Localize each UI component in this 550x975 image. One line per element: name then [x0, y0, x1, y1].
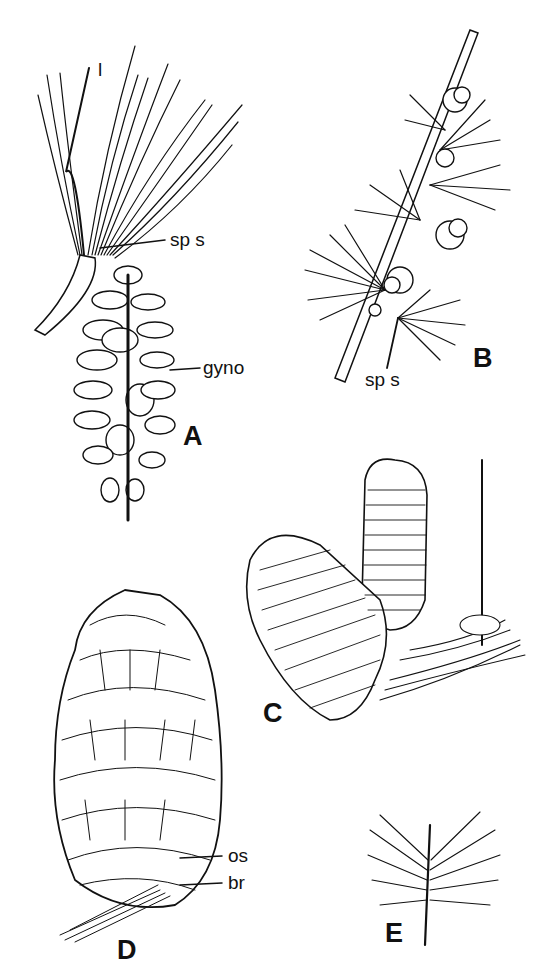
annotation-spur-shoot-a: sp s — [170, 230, 205, 249]
panel-label-b: B — [473, 345, 493, 372]
botanical-plate: l sp s gyno A sp s B C os br D E — [0, 0, 550, 975]
panel-label-c: C — [263, 700, 283, 727]
panel-a-cone — [74, 266, 175, 520]
panel-b-twig — [305, 30, 510, 382]
panel-label-e: E — [385, 920, 403, 947]
panel-a-needles — [38, 46, 242, 258]
annotation-bract: br — [228, 873, 245, 892]
annotation-spur-shoot-b: sp s — [365, 370, 400, 389]
annotation-gyno: gyno — [203, 358, 244, 377]
panel-d-cone — [54, 590, 222, 942]
panel-label-d: D — [117, 937, 137, 964]
illustration-drawing — [0, 0, 550, 975]
annotation-leaf-l: l — [98, 60, 102, 79]
panel-c-cones — [247, 459, 525, 720]
panel-label-a: A — [183, 423, 203, 450]
annotation-ovuliferous-scale: os — [228, 846, 248, 865]
